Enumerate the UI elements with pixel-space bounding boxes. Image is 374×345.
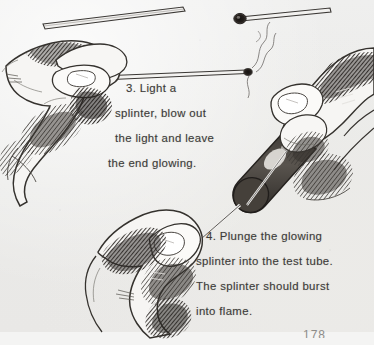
- wooden-splinter: [43, 7, 185, 29]
- scanned-page: 3. Light a splinter, blow out the light …: [0, 0, 374, 345]
- caption-step-4: 4. Plunge the glowing splinter into the …: [206, 226, 333, 326]
- page-number: 178: [303, 329, 326, 338]
- hand-holding-test-tube: [226, 22, 374, 220]
- caption-step-3-line-4: the end glowing.: [108, 153, 214, 178]
- smoke-wisp: [247, 22, 276, 98]
- caption-step-4-line-3: The splinter should burst: [196, 276, 333, 301]
- caption-step-4-line-2: splinter into the test tube.: [196, 251, 333, 276]
- caption-step-3-line-1: 3. Light a: [126, 78, 214, 103]
- glowing-splinter: [234, 8, 331, 24]
- caption-step-4-line-1: 4. Plunge the glowing: [206, 226, 333, 251]
- smoke-wisp: [256, 31, 261, 42]
- caption-step-3: 3. Light a splinter, blow out the light …: [126, 78, 214, 178]
- caption-step-3-line-2: splinter, blow out: [115, 103, 214, 128]
- caption-step-3-line-3: the light and leave: [115, 128, 214, 153]
- caption-step-4-line-4: into flame.: [196, 301, 333, 326]
